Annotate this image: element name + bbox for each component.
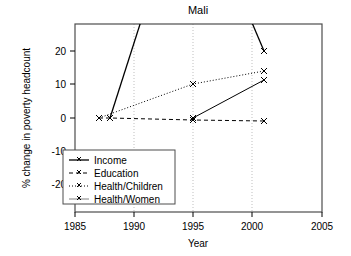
legend-label-health-women: Health/Women bbox=[94, 194, 160, 205]
x-axis-label: Year bbox=[188, 238, 209, 249]
figure-background bbox=[0, 0, 351, 256]
xtick-label-2000: 2000 bbox=[241, 221, 264, 232]
y-axis-label: % change in poverty headcount bbox=[21, 48, 32, 188]
xtick-label-1985: 1985 bbox=[64, 221, 87, 232]
ytick-label-10: 10 bbox=[55, 79, 67, 90]
legend-label-health-children: Health/Children bbox=[94, 181, 163, 192]
ytick-label-0: 0 bbox=[60, 113, 66, 124]
ytick-label-20: 20 bbox=[55, 46, 67, 57]
chart-legend: Income Education Health/Children Health/… bbox=[63, 150, 175, 205]
chart-figure: Mali 20 10 0 -10 -20 bbox=[0, 0, 351, 256]
legend-label-education: Education bbox=[94, 168, 138, 179]
xtick-label-1995: 1995 bbox=[182, 221, 205, 232]
xtick-label-2005: 2005 bbox=[311, 221, 334, 232]
legend-label-income: Income bbox=[94, 155, 127, 166]
chart-title: Mali bbox=[188, 4, 208, 16]
chart-svg: Mali 20 10 0 -10 -20 bbox=[0, 0, 351, 256]
xtick-label-1990: 1990 bbox=[123, 221, 146, 232]
